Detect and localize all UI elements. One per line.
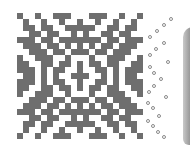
ring-dot-icon — [152, 84, 156, 88]
ring-dot-icon — [162, 41, 166, 45]
ring-dot-icon — [148, 53, 152, 57]
ring-dot-icon — [162, 135, 166, 139]
ring-dot-icon — [147, 90, 151, 94]
ring-dot-icon — [152, 71, 156, 75]
ring-dot-icon — [154, 47, 158, 51]
ring-dot-icon — [157, 114, 161, 118]
ring-dot-icon — [169, 17, 173, 21]
ring-dot-icon — [146, 119, 150, 123]
ring-dot-icon — [151, 124, 155, 128]
ring-dot-icon — [148, 65, 152, 69]
ring-dot-icon — [156, 130, 160, 134]
ring-dot-icon — [146, 101, 150, 105]
ring-dot-icon — [155, 29, 159, 33]
ring-dot-icon — [164, 95, 168, 99]
ring-dot-icon — [151, 106, 155, 110]
side-panel-edge — [183, 27, 190, 145]
ring-dot-icon — [162, 23, 166, 27]
ring-dot-icon — [148, 35, 152, 39]
ring-dot-icon — [166, 60, 170, 64]
ring-dot-icon — [159, 77, 163, 81]
ring-dots-layer — [0, 0, 190, 152]
